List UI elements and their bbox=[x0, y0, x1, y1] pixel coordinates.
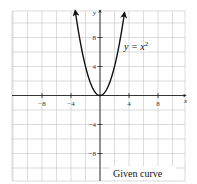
grid-border bbox=[12, 11, 185, 181]
y-tick-label: 8 bbox=[93, 34, 97, 42]
y-axis-label: y bbox=[92, 9, 97, 17]
chart-caption: Given curve bbox=[113, 168, 163, 179]
y-tick-label: −8 bbox=[89, 150, 97, 158]
x-tick-label: −4 bbox=[67, 100, 75, 108]
x-tick-label: −8 bbox=[38, 100, 46, 108]
x-tick-label: 4 bbox=[127, 100, 131, 108]
curve-equation-lhs: y = x bbox=[123, 41, 145, 52]
grid-lines bbox=[12, 11, 185, 181]
x-tick-label: 8 bbox=[156, 100, 160, 108]
x-axis-label: x bbox=[183, 97, 188, 105]
y-tick-label: −4 bbox=[89, 121, 97, 129]
chart-plot: −8−44884−4−8 x y y = x2 Given curve bbox=[0, 0, 197, 184]
curve-equation-exponent: 2 bbox=[145, 40, 149, 48]
curve-equation-label: y = x2 bbox=[123, 40, 149, 52]
y-tick-label: 4 bbox=[93, 63, 97, 71]
